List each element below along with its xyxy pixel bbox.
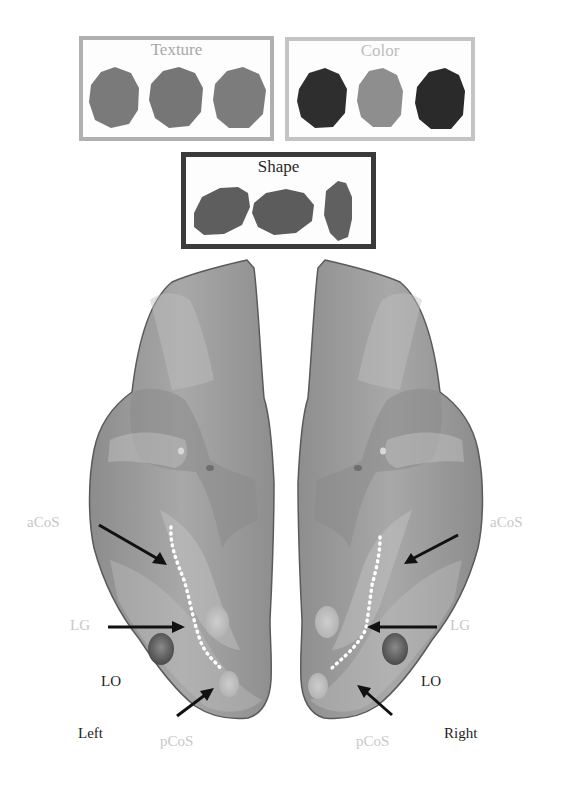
brain-figure <box>0 0 569 789</box>
right-sulcus-dimple <box>380 448 386 455</box>
left-hemisphere <box>90 260 275 719</box>
right-hemisphere-label: Right <box>444 725 477 742</box>
left-lo-roi <box>148 633 174 665</box>
right-hemisphere <box>298 260 483 719</box>
right-lg-label: LG <box>450 617 470 634</box>
right-acos-label: aCoS <box>490 514 523 531</box>
left-acos-label: aCoS <box>27 514 60 531</box>
left-pcos-roi <box>219 671 239 697</box>
right-sulcus-dark <box>354 465 362 471</box>
right-pcos-label: pCoS <box>356 733 389 750</box>
left-lo-label: LO <box>101 673 121 690</box>
right-lg-roi <box>315 606 339 638</box>
right-lo-roi <box>382 633 408 665</box>
right-pcos-roi <box>308 673 328 699</box>
left-sulcus-dimple <box>178 448 184 455</box>
left-hemisphere-label: Left <box>78 725 103 742</box>
left-lg-label: LG <box>70 617 90 634</box>
right-lo-label: LO <box>421 673 441 690</box>
left-lg-roi <box>205 606 229 638</box>
left-sulcus-dark <box>206 465 214 471</box>
left-pcos-label: pCoS <box>160 733 193 750</box>
